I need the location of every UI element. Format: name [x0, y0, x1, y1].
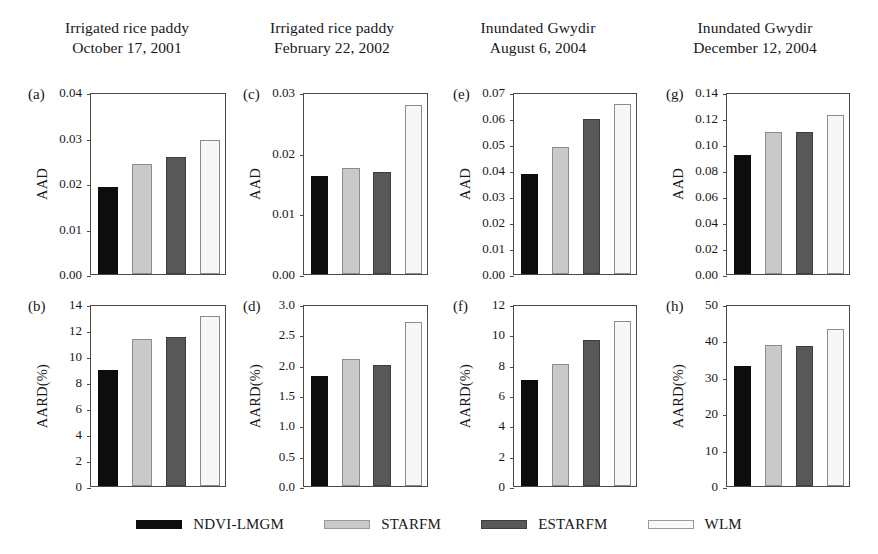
y-tick-label: 40 [670, 333, 718, 349]
bar-f-starfm [552, 364, 569, 486]
bar-c-estarfm [373, 172, 391, 274]
legend: NDVI-LMGMSTARFMESTARFMWLM [0, 509, 878, 539]
y-tick-mark [300, 367, 304, 368]
bar-h-ndvi-lmgm [734, 366, 751, 486]
y-axis-title-a: AAD [34, 144, 51, 224]
y-tick-label: 0.00 [670, 267, 718, 283]
column-title-4-line1: Inundated Gwydir [644, 18, 866, 38]
y-tick-label: 0.01 [457, 241, 505, 257]
y-tick-label: 50 [670, 297, 718, 313]
y-tick-mark [510, 427, 514, 428]
plot-area-g [726, 93, 850, 275]
bar-b-wlm [200, 316, 219, 486]
legend-swatch-starfm [324, 520, 370, 529]
column-title-2-line2: February 22, 2002 [226, 38, 438, 58]
y-tick-label: 0.04 [34, 85, 82, 101]
y-tick-label: 0.01 [247, 206, 295, 222]
column-title-3-line2: August 6, 2004 [432, 38, 644, 58]
plot-area-a [90, 93, 226, 275]
y-tick-mark [723, 198, 727, 199]
y-tick-label: 8 [457, 358, 505, 374]
plot-area-b [90, 305, 226, 487]
bar-e-starfm [552, 147, 569, 274]
y-tick-label: 0.04 [457, 163, 505, 179]
y-axis-title-b: AARD(%) [34, 356, 51, 436]
legend-label-starfm: STARFM [381, 516, 441, 533]
legend-swatch-ndvi-lmgm [136, 520, 182, 529]
y-tick-label: 6 [34, 401, 82, 417]
legend-entry-wlm[interactable]: WLM [648, 516, 742, 533]
panel-e: (e)0.000.010.020.030.040.050.060.07AAD [0, 0, 878, 554]
y-tick-label: 14 [34, 297, 82, 313]
y-tick-mark [723, 276, 727, 277]
y-tick-mark [723, 224, 727, 225]
column-title-1-line1: Irrigated rice paddy [16, 18, 238, 38]
y-tick-mark [87, 462, 91, 463]
bar-e-wlm [614, 104, 631, 274]
y-tick-mark [723, 452, 727, 453]
y-tick-label: 0.03 [34, 131, 82, 147]
bar-c-wlm [405, 105, 423, 274]
legend-label-estarfm: ESTARFM [538, 516, 607, 533]
y-tick-label: 0.00 [34, 267, 82, 283]
legend-entry-ndvi-lmgm[interactable]: NDVI-LMGM [136, 516, 284, 533]
bar-g-wlm [827, 115, 844, 274]
y-tick-label: 6 [457, 388, 505, 404]
bar-b-ndvi-lmgm [98, 370, 117, 486]
y-tick-mark [300, 427, 304, 428]
column-title-4-line2: December 12, 2004 [644, 38, 866, 58]
bar-g-estarfm [796, 132, 813, 274]
y-tick-label: 0.14 [670, 85, 718, 101]
y-tick-label: 20 [670, 406, 718, 422]
y-tick-mark [300, 155, 304, 156]
panel-tag-a: (a) [28, 86, 45, 103]
column-title-3: Inundated Gwydir August 6, 2004 [432, 18, 644, 59]
y-tick-label: 1.5 [247, 388, 295, 404]
plot-area-h [726, 305, 850, 487]
column-title-4: Inundated Gwydir December 12, 2004 [644, 18, 866, 59]
y-tick-mark [87, 140, 91, 141]
bar-a-wlm [200, 140, 219, 274]
y-tick-label: 0.12 [670, 111, 718, 127]
panel-tag-b: (b) [28, 298, 46, 315]
panel-b: (b)02468101214AARD(%) [0, 0, 878, 554]
y-tick-mark [87, 231, 91, 232]
y-tick-mark [510, 397, 514, 398]
y-tick-mark [510, 488, 514, 489]
y-tick-mark [510, 172, 514, 173]
y-tick-mark [300, 94, 304, 95]
legend-entry-starfm[interactable]: STARFM [324, 516, 441, 533]
y-tick-mark [723, 415, 727, 416]
bar-f-ndvi-lmgm [521, 380, 538, 486]
y-tick-mark [300, 215, 304, 216]
y-tick-mark [723, 488, 727, 489]
y-tick-label: 0.01 [34, 222, 82, 238]
y-tick-label: 2.0 [247, 358, 295, 374]
y-tick-label: 10 [457, 327, 505, 343]
y-tick-label: 10 [34, 349, 82, 365]
y-tick-mark [723, 120, 727, 121]
y-tick-mark [510, 306, 514, 307]
plot-area-d [303, 305, 428, 487]
y-tick-label: 0.00 [457, 267, 505, 283]
y-tick-label: 0.02 [34, 176, 82, 192]
legend-label-ndvi-lmgm: NDVI-LMGM [193, 516, 284, 533]
y-tick-label: 0.06 [457, 111, 505, 127]
y-tick-mark [87, 94, 91, 95]
panel-tag-f: (f) [453, 298, 468, 315]
y-tick-mark [723, 172, 727, 173]
y-tick-mark [510, 367, 514, 368]
legend-entry-estarfm[interactable]: ESTARFM [481, 516, 607, 533]
plot-area-c [303, 93, 428, 275]
bar-b-starfm [132, 339, 151, 486]
y-tick-mark [510, 458, 514, 459]
panel-tag-c: (c) [243, 86, 260, 103]
y-tick-label: 2.5 [247, 327, 295, 343]
y-tick-label: 4 [34, 427, 82, 443]
y-tick-label: 0.10 [670, 137, 718, 153]
y-tick-mark [87, 384, 91, 385]
y-tick-label: 0.03 [247, 85, 295, 101]
bar-c-ndvi-lmgm [311, 176, 329, 274]
y-tick-mark [87, 185, 91, 186]
panel-g: (g)0.000.020.040.060.080.100.120.14AAD [0, 0, 878, 554]
